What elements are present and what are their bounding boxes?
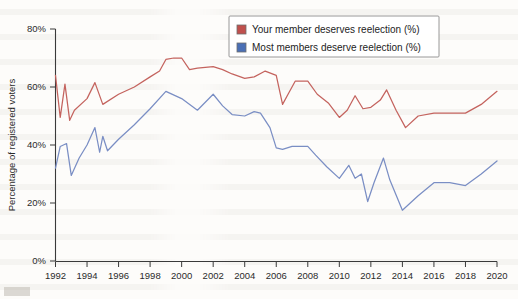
x-tick-label: 2010: [329, 270, 350, 281]
x-tick-label: 2020: [486, 270, 507, 281]
legend-swatch-your-member[interactable]: [237, 25, 246, 34]
y-axis-ticks: 0%20%40%60%80%: [27, 23, 56, 266]
x-axis-ticks: 1992199419961998200020022004200620082010…: [45, 262, 508, 282]
chart-page: 0%20%40%60%80% 1992199419961998200020022…: [0, 0, 518, 299]
legend-label-your-member: Your member deserves reelection (%): [252, 24, 419, 35]
legend-swatch-most-members[interactable]: [237, 43, 246, 52]
x-tick-label: 2018: [455, 270, 476, 281]
y-tick-label: 40%: [27, 139, 47, 150]
series-line-most-members: [56, 91, 498, 210]
x-tick-label: 1992: [45, 270, 66, 281]
x-tick-label: 1994: [76, 270, 97, 281]
x-tick-label: 2004: [234, 270, 255, 281]
x-tick-label: 2006: [266, 270, 287, 281]
y-axis-title: Percentage of registered voters: [6, 78, 17, 211]
x-tick-label: 2000: [171, 270, 192, 281]
chart-legend: Your member deserves reelection (%)Most …: [229, 16, 439, 57]
x-tick-label: 2002: [203, 270, 224, 281]
line-chart: 0%20%40%60%80% 1992199419961998200020022…: [0, 0, 518, 299]
series-line-your-member: [56, 58, 498, 128]
x-tick-label: 2014: [392, 270, 413, 281]
legend-label-most-members: Most members deserve reelection (%): [252, 42, 421, 53]
y-tick-label: 80%: [27, 23, 47, 34]
x-tick-label: 2008: [297, 270, 318, 281]
x-tick-label: 2016: [423, 270, 444, 281]
x-tick-label: 2012: [360, 270, 381, 281]
y-tick-label: 60%: [27, 81, 47, 92]
y-tick-label: 0%: [32, 255, 46, 266]
x-tick-label: 1998: [140, 270, 161, 281]
x-tick-label: 1996: [108, 270, 129, 281]
series-group: [56, 58, 498, 210]
y-tick-label: 20%: [27, 197, 47, 208]
